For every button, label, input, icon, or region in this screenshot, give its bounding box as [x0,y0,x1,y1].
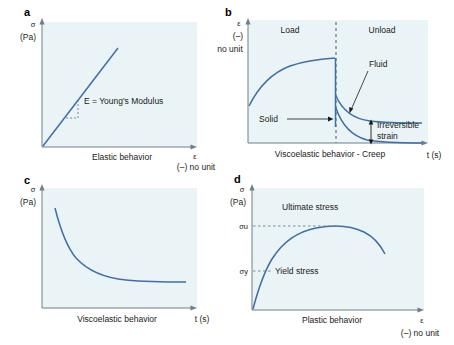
x-axis-symbol: ε [420,316,424,325]
y-axis-unit-2: no unit [217,44,243,54]
panel-c-plot: σ (Pa) t (s) Viscoelastic behavior [0,170,227,345]
stress-strain-figure: a σ (Pa) ε (–) no unit Elastic behavior [0,0,454,345]
x-axis-symbol: t (s) [427,150,442,160]
y-axis-unit: (Pa) [20,32,36,42]
ultimate-stress-tick-label: σu [239,222,248,231]
y-axis-unit: (–) [233,31,244,41]
solid-annotation: Solid [259,114,278,124]
panel-d-plot: σu σy Ultimate stress Yield stress σ (Pa… [212,170,454,345]
y-axis-unit: (Pa) [230,197,246,207]
x-axis-unit: (–) no unit [401,328,440,338]
fluid-annotation: Fluid [369,59,388,69]
panel-b: b Load Unload Fluid Soli [212,0,454,172]
y-axis-symbol: ε [237,19,241,28]
y-axis-symbol: σ [31,20,36,29]
yield-stress-tick-label: σy [240,267,249,276]
panel-d-caption: Plastic behavior [302,315,362,325]
y-axis-symbol: σ [31,185,36,194]
irreversible-strain-label-line1: Irreversible [377,120,419,130]
panel-b-caption: Viscoelastic behavior - Creep [275,149,386,159]
y-axis-arrow-icon [39,184,44,191]
plot-area-background [42,188,197,308]
panel-b-plot: Load Unload Fluid Solid Irreversible str… [212,0,454,172]
youngs-modulus-annotation: E = Young's Modulus [84,96,163,106]
panel-a-caption: Elastic behavior [92,152,152,162]
load-region-label: Load [281,25,300,35]
panel-d: d σu σy Ultimate stress Yield stress σ (… [212,170,454,345]
panel-c: c σ (Pa) t (s) Viscoelastic behavior [0,170,227,345]
panel-c-caption: Viscoelastic behavior [77,314,157,324]
x-axis-symbol: t (s) [195,314,210,324]
plot-area-background [42,22,197,147]
irreversible-strain-label-line2: strain [377,131,398,141]
y-axis-unit: (Pa) [20,197,36,207]
unload-region-label: Unload [369,25,396,35]
y-axis-arrow-icon [249,184,254,191]
ultimate-stress-annotation: Ultimate stress [282,202,338,212]
x-axis-symbol: ε [193,152,197,161]
y-axis-arrow-icon [39,18,44,25]
panel-a-plot: σ (Pa) ε (–) no unit Elastic behavior E … [0,0,227,172]
yield-stress-annotation: Yield stress [275,266,319,276]
panel-a: a σ (Pa) ε (–) no unit Elastic behavior [0,0,227,172]
y-axis-symbol: σ [240,185,245,194]
